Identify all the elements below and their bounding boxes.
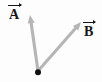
vector-a-label: A: [9, 4, 19, 22]
vector-diagram-figure: A B: [0, 0, 102, 82]
vector-a-label-text: A: [9, 7, 19, 22]
vector-b-label: B: [84, 21, 93, 39]
vector-b-overbar-icon: [83, 22, 95, 23]
vector-origin-point: [35, 69, 41, 75]
vector-a-overbar-icon: [8, 5, 21, 6]
vector-b-label-text: B: [84, 24, 93, 39]
